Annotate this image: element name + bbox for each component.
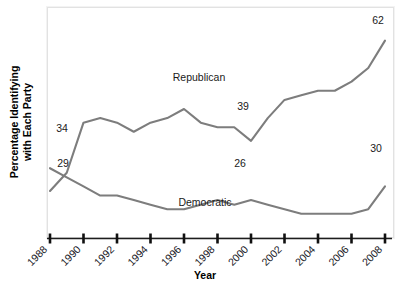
value-label-republican-end: 62 (372, 14, 384, 26)
chart-figure: 1988199019921994199619982000200220042006… (0, 0, 410, 291)
value-label-democratic-mid: 26 (234, 157, 246, 169)
x-axis-tick-label: 1990 (58, 243, 83, 268)
x-axis-tick-label: 1998 (192, 243, 217, 268)
x-axis-tick-label: 2002 (259, 243, 284, 268)
x-axis-tick-label: 2008 (359, 243, 384, 268)
value-label-democratic-end: 30 (370, 142, 382, 154)
value-label-democratic-start: 34 (56, 122, 68, 134)
x-axis-tick-label: 1994 (125, 243, 150, 268)
value-label-republican-start: 29 (57, 157, 69, 169)
x-axis-tick-label: 1988 (24, 243, 49, 268)
x-axis-tick-label: 1992 (91, 243, 116, 268)
x-axis-tick-label: 2000 (225, 243, 250, 268)
series-group (50, 41, 385, 214)
x-axis-title: Year (194, 269, 216, 281)
x-axis-tick-labels: 1988199019921994199619982000200220042006… (24, 243, 384, 268)
y-axis-title-line1: Percentage Identifying (8, 66, 20, 179)
y-axis-title-line2: with Each Party (21, 83, 33, 162)
x-axis-tick-label: 2004 (292, 243, 317, 268)
x-axis-tick-label: 2006 (326, 243, 351, 268)
x-axis: 1988199019921994199619982000200220042006… (24, 234, 392, 268)
chart-canvas: 1988199019921994199619982000200220042006… (0, 0, 410, 291)
value-label-republican-mid: 39 (237, 100, 249, 112)
series-line-republican (50, 41, 385, 191)
x-axis-tick-label: 1996 (158, 243, 183, 268)
series-label-democratic: Democratic (178, 196, 231, 208)
series-label-republican: Republican (173, 71, 226, 83)
y-axis-title: Percentage Identifying with Each Party (8, 66, 33, 179)
